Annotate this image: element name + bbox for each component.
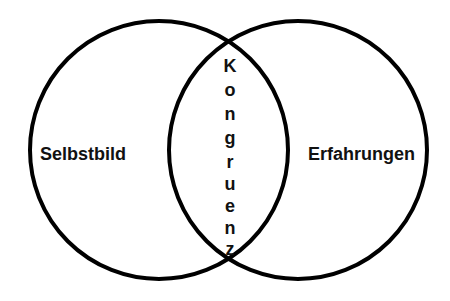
kongruenz-letter: u	[225, 174, 236, 194]
label-kongruenz: K o n g r u e n z	[224, 56, 237, 259]
kongruenz-letter: n	[225, 104, 236, 124]
venn-diagram: Selbstbild Erfahrungen K o n g r u e n z	[0, 0, 450, 301]
kongruenz-letter: r	[226, 152, 233, 172]
kongruenz-letter: K	[224, 56, 237, 76]
kongruenz-letter: g	[225, 128, 236, 148]
label-selbstbild: Selbstbild	[40, 144, 126, 164]
label-erfahrungen: Erfahrungen	[308, 144, 415, 164]
kongruenz-letter: o	[225, 80, 236, 100]
kongruenz-letter: n	[225, 218, 236, 238]
kongruenz-letter: e	[225, 196, 235, 216]
kongruenz-letter: z	[226, 239, 235, 259]
